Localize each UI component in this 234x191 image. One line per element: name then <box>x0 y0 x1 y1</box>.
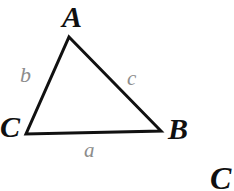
vertex-label-c: C <box>0 112 20 142</box>
vertex-label-a: A <box>62 2 82 32</box>
side-label-a: a <box>84 140 95 161</box>
vertex-label-b: B <box>168 114 188 144</box>
partial-clipped-letter: C <box>210 162 231 191</box>
side-label-c: c <box>127 68 136 89</box>
triangle-outline <box>26 37 161 134</box>
diagram-canvas: A B C a b c C <box>0 0 234 191</box>
side-label-b: b <box>20 64 31 86</box>
triangle-shape <box>0 0 234 191</box>
